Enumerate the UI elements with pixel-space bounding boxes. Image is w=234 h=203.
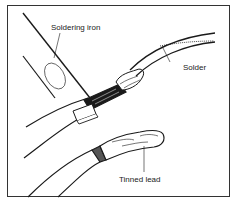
soldering-iron-label: Soldering iron: [51, 24, 100, 32]
figure-frame: [8, 6, 230, 197]
tinned-lead-cable: [28, 131, 164, 197]
soldering-diagram: Soldering iron Solder Tinned lead: [0, 0, 234, 203]
illustration: [0, 0, 234, 203]
tinned-lead-label: Tinned lead: [119, 176, 161, 184]
solder-label: Solder: [183, 64, 206, 72]
